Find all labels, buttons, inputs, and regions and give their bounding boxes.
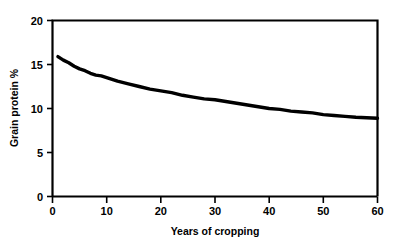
x-tick-label-20: 20: [155, 205, 167, 217]
y-tick-label-15: 15: [31, 59, 43, 71]
y-tick-label-10: 10: [31, 103, 43, 115]
chart-background: [0, 0, 398, 246]
x-axis-title: Years of cropping: [171, 225, 260, 237]
y-tick-label-20: 20: [31, 15, 43, 27]
y-tick-label-5: 5: [37, 147, 43, 159]
x-tick-label-10: 10: [101, 205, 113, 217]
x-tick-label-60: 60: [371, 205, 383, 217]
x-tick-label-30: 30: [209, 205, 221, 217]
x-tick-label-0: 0: [49, 205, 55, 217]
grain-protein-chart: 20 15 10 5 0 0 10 20 30 40 50 60 Years o…: [0, 0, 398, 246]
x-tick-label-50: 50: [317, 205, 329, 217]
y-axis-title: Grain protein %: [8, 68, 20, 147]
y-tick-label-0: 0: [37, 191, 43, 203]
x-tick-label-40: 40: [263, 205, 275, 217]
